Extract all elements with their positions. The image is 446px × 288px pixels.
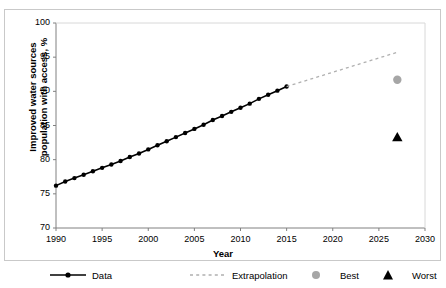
data-point-marker: [211, 118, 215, 122]
legend-item-best: Best: [296, 266, 359, 284]
data-point-marker: [109, 162, 113, 166]
data-point-marker: [91, 169, 95, 173]
series-data: [54, 84, 289, 187]
data-point-marker: [275, 88, 279, 92]
black-triangle-marker-icon: [368, 268, 408, 282]
data-point-marker: [165, 139, 169, 143]
legend-label: Best: [340, 270, 359, 281]
data-point-marker: [72, 176, 76, 180]
legend-item-data: Data: [48, 266, 112, 284]
legend-item-worst: Worst: [368, 266, 437, 284]
data-point-marker: [63, 179, 67, 183]
data-point-marker: [100, 166, 104, 170]
legend-label: Worst: [412, 270, 437, 281]
series-line: [56, 87, 287, 186]
data-point-marker: [238, 106, 242, 110]
data-point-marker: [229, 110, 233, 114]
legend-item-extrapolation: Extrapolation: [188, 266, 287, 284]
data-point-marker: [220, 114, 224, 118]
dashed-gray-line-icon: [188, 268, 228, 282]
data-point-marker: [54, 183, 58, 187]
data-point-marker: [81, 173, 85, 177]
data-point-marker: [393, 76, 401, 84]
gray-circle-marker-icon: [296, 268, 336, 282]
data-point-marker: [392, 132, 402, 141]
data-point-marker: [257, 97, 261, 101]
data-point-marker: [248, 101, 252, 105]
solid-line-with-circle-marker-icon: [48, 268, 88, 282]
data-point-marker: [128, 155, 132, 159]
data-point-marker: [155, 143, 159, 147]
data-point-marker: [266, 93, 270, 97]
series-line: [287, 52, 400, 87]
chart-figure: Improved water sources population with a…: [0, 0, 446, 288]
data-point-marker: [118, 159, 122, 163]
data-point-marker: [174, 135, 178, 139]
series-worst: [392, 132, 402, 141]
data-point-marker: [146, 147, 150, 151]
data-point-marker: [183, 131, 187, 135]
series-extrapolation: [287, 52, 400, 87]
series-best: [393, 76, 401, 84]
chart-legend: DataExtrapolationBestWorst: [0, 266, 446, 286]
data-point-marker: [201, 123, 205, 127]
legend-label: Data: [92, 270, 112, 281]
plot-area: [0, 0, 446, 288]
legend-label: Extrapolation: [232, 270, 287, 281]
data-point-marker: [192, 127, 196, 131]
data-point-marker: [137, 151, 141, 155]
